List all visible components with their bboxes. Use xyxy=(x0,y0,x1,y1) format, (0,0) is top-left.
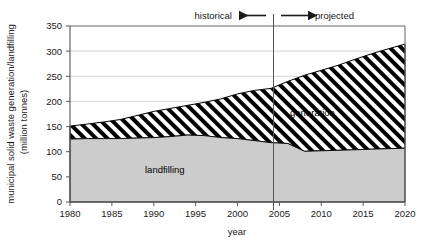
y-axis-ticks xyxy=(66,26,70,202)
ytick-label-350: 350 xyxy=(46,20,62,31)
xtick-label-2000: 2000 xyxy=(227,208,248,219)
xtick-label-1995: 1995 xyxy=(185,208,206,219)
xtick-label-1980: 1980 xyxy=(59,208,80,219)
ytick-label-150: 150 xyxy=(46,121,62,132)
waste-generation-landfilling-chart: 0 50 100 150 200 250 300 350 1980 1985 1… xyxy=(0,0,424,244)
annotation-historical-label: historical xyxy=(195,10,233,21)
ytick-label-0: 0 xyxy=(57,196,62,207)
y-axis-title-line2: (million tonnes) xyxy=(18,90,29,154)
ytick-label-300: 300 xyxy=(46,46,62,57)
ytick-label-200: 200 xyxy=(46,96,62,107)
ytick-label-250: 250 xyxy=(46,71,62,82)
annotation-projected-label: projected xyxy=(315,10,354,21)
ytick-label-50: 50 xyxy=(51,171,62,182)
x-axis-title: year xyxy=(228,226,246,237)
xtick-label-2020: 2020 xyxy=(394,208,415,219)
xtick-label-1990: 1990 xyxy=(143,208,164,219)
series-label-generation: generation xyxy=(290,107,335,118)
y-axis-title-line1: municipal solid waste generation/landfil… xyxy=(5,24,16,204)
x-axis-ticks xyxy=(70,202,405,206)
x-axis-tick-labels: 1980 1985 1990 1995 2000 2005 2010 2015 … xyxy=(59,208,415,219)
chart-container: 0 50 100 150 200 250 300 350 1980 1985 1… xyxy=(0,0,424,244)
xtick-label-1985: 1985 xyxy=(101,208,122,219)
ytick-label-100: 100 xyxy=(46,146,62,157)
series-label-landfilling: landfilling xyxy=(145,164,185,175)
xtick-label-2015: 2015 xyxy=(353,208,374,219)
xtick-label-2005: 2005 xyxy=(269,208,290,219)
xtick-label-2010: 2010 xyxy=(311,208,332,219)
y-axis-tick-labels: 0 50 100 150 200 250 300 350 xyxy=(46,20,62,207)
